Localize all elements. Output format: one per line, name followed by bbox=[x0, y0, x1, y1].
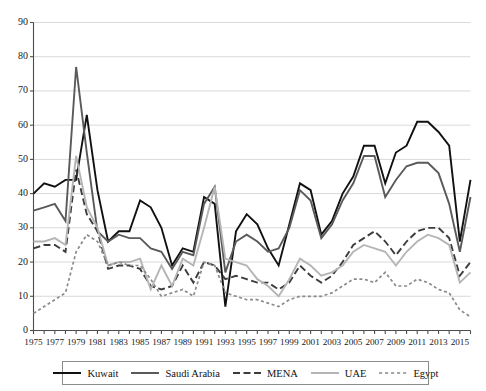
legend-item-uae[interactable]: UAE bbox=[304, 368, 373, 379]
y-tick-label: 40 bbox=[4, 188, 28, 198]
y-tick-label: 10 bbox=[4, 291, 28, 301]
legend-swatch-icon bbox=[232, 368, 262, 378]
legend-label: MENA bbox=[267, 368, 298, 379]
gridlines bbox=[34, 23, 471, 331]
plot-area bbox=[0, 0, 486, 391]
series-line-uae bbox=[34, 156, 471, 296]
y-tick-label: 60 bbox=[4, 120, 28, 130]
legend-swatch-icon bbox=[52, 368, 82, 378]
y-tick-label: 50 bbox=[4, 154, 28, 164]
chart-legend: KuwaitSaudi ArabiaMENAUAEEgypt bbox=[62, 361, 429, 385]
legend-swatch-icon bbox=[378, 368, 408, 378]
series-line-egypt bbox=[34, 235, 471, 317]
legend-label: Egypt bbox=[413, 368, 438, 379]
series-line-saudi-arabia bbox=[34, 67, 471, 272]
y-tick-label: 20 bbox=[4, 257, 28, 267]
legend-item-saudi-arabia[interactable]: Saudi Arabia bbox=[124, 368, 226, 379]
legend-label: UAE bbox=[345, 368, 367, 379]
legend-label: Saudi Arabia bbox=[165, 368, 220, 379]
legend-item-mena[interactable]: MENA bbox=[226, 368, 304, 379]
y-tick-label: 90 bbox=[4, 17, 28, 27]
legend-label: Kuwait bbox=[87, 368, 118, 379]
series-line-kuwait bbox=[34, 115, 471, 307]
line-chart: 0102030405060708090 19751977197919811983… bbox=[0, 0, 486, 391]
y-tick-label: 80 bbox=[4, 51, 28, 61]
y-tick-label: 70 bbox=[4, 85, 28, 95]
y-tick-label: 30 bbox=[4, 222, 28, 232]
legend-swatch-icon bbox=[310, 368, 340, 378]
legend-item-egypt[interactable]: Egypt bbox=[372, 368, 444, 379]
x-tick-label: 2015 bbox=[443, 337, 477, 347]
legend-item-kuwait[interactable]: Kuwait bbox=[46, 368, 124, 379]
legend-swatch-icon bbox=[130, 368, 160, 378]
y-tick-label: 0 bbox=[4, 325, 28, 335]
